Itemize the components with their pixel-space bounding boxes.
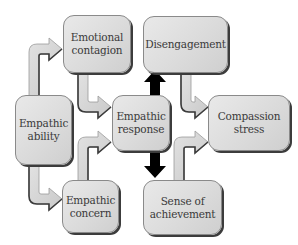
pipe-arrow-concern-to-response <box>78 131 111 181</box>
node-label-line2: concern <box>66 207 115 220</box>
pipe-arrow-ability-to-contagion <box>29 38 62 96</box>
node-label-line1: Empathic <box>116 110 165 123</box>
black-arrow-down-to-achievement <box>144 150 166 178</box>
node-label-line1: Empathic <box>19 117 68 130</box>
node-compassion-stress: Compassion stress <box>208 95 290 151</box>
pipe-arrow-achievement-to-stress <box>174 131 208 181</box>
pipe-arrow-contagion-to-response <box>78 72 111 118</box>
node-label-line1: Disengagement <box>145 38 226 51</box>
node-label-line2: response <box>116 123 165 136</box>
node-emotional-contagion: Emotional contagion <box>63 15 131 73</box>
node-label-line2: ability <box>19 130 68 143</box>
node-sense-of-achievement: Sense of achievement <box>143 180 222 235</box>
node-empathic-concern: Empathic concern <box>62 180 119 233</box>
pipe-arrow-disengagement-to-stress <box>181 72 208 118</box>
node-label-line2: stress <box>218 123 281 136</box>
black-arrow-up-to-disengagement <box>144 70 166 95</box>
node-empathic-ability: Empathic ability <box>15 95 72 165</box>
node-label-line2: achievement <box>150 208 216 221</box>
node-empathic-response: Empathic response <box>112 95 170 151</box>
node-label-line1: Compassion <box>218 110 281 123</box>
node-label-line1: Empathic <box>66 194 115 207</box>
node-label-line2: contagion <box>71 44 123 57</box>
node-disengagement: Disengagement <box>143 16 228 73</box>
node-label-line1: Emotional <box>71 31 123 44</box>
pipe-arrow-ability-to-concern <box>29 164 62 210</box>
node-label-line1: Sense of <box>150 195 216 208</box>
